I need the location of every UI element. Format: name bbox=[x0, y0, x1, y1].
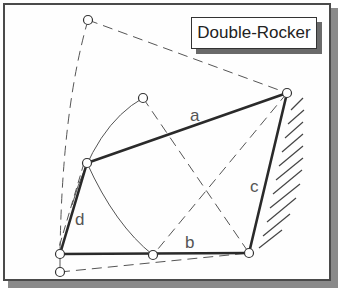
link-label-d: d bbox=[75, 210, 84, 229]
link-c bbox=[249, 93, 287, 253]
link-label-a: a bbox=[190, 106, 200, 125]
pivot-ground-left bbox=[56, 250, 65, 259]
pivot-extreme-bottom-left bbox=[56, 268, 65, 277]
link-label-c: c bbox=[250, 177, 259, 196]
arc-coupler-left-to-bottom bbox=[87, 163, 153, 255]
d-offset-dash bbox=[57, 163, 84, 254]
pivots bbox=[56, 16, 292, 277]
title-box: Double-Rocker bbox=[191, 17, 317, 49]
pivot-coupler-right bbox=[283, 89, 292, 98]
pivot-extreme-bottom-mid bbox=[149, 251, 158, 260]
pivot-extreme-mid bbox=[139, 94, 148, 103]
link-d bbox=[60, 163, 87, 254]
pivot-coupler-left bbox=[83, 159, 92, 168]
pivot-ground-right bbox=[245, 249, 254, 258]
link-label-b: b bbox=[185, 233, 194, 252]
pivot-extreme-top bbox=[84, 16, 93, 25]
link-a bbox=[87, 93, 287, 163]
title-text: Double-Rocker bbox=[197, 23, 310, 43]
arc-left-inner bbox=[72, 98, 143, 205]
